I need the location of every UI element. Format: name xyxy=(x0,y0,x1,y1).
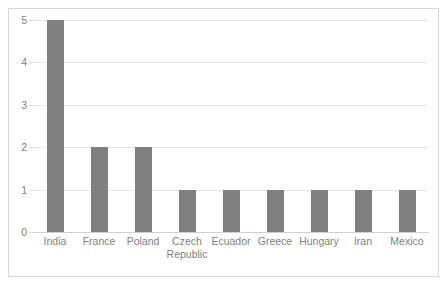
x-tick-label-iran: Iran xyxy=(341,235,385,261)
bar-slot-mexico xyxy=(385,20,429,232)
y-tick-label-1: 1 xyxy=(21,184,27,195)
bar-slot-greece xyxy=(253,20,297,232)
bar-slot-hungary xyxy=(297,20,341,232)
y-tick-label-2: 2 xyxy=(21,142,27,153)
bar-slot-iran xyxy=(341,20,385,232)
bar-mexico[interactable] xyxy=(399,190,416,232)
bar-greece[interactable] xyxy=(267,190,284,232)
bar-slot-india xyxy=(33,20,77,232)
x-tick-label-poland: Poland xyxy=(121,235,165,261)
chart-container: 5 4 3 2 1 0 India France xyxy=(8,8,439,277)
tick-mark-0 xyxy=(29,232,33,233)
y-tick-label-4: 4 xyxy=(21,57,27,68)
bar-slot-poland xyxy=(121,20,165,232)
bar-poland[interactable] xyxy=(135,147,152,232)
bar-slot-france xyxy=(77,20,121,232)
x-tick-label-czech-republic: Czech Republic xyxy=(165,235,209,261)
x-tick-label-india: India xyxy=(33,235,77,261)
bar-czech-republic[interactable] xyxy=(179,190,196,232)
x-tick-label-hungary: Hungary xyxy=(297,235,341,261)
bar-slot-czech-republic xyxy=(165,20,209,232)
x-tick-label-france: France xyxy=(77,235,121,261)
bar-france[interactable] xyxy=(91,147,108,232)
bar-ecuador[interactable] xyxy=(223,190,240,232)
y-tick-label-0: 0 xyxy=(21,227,27,238)
category-axis: India France Poland Czech Republic Ecuad… xyxy=(33,235,429,261)
y-tick-label-3: 3 xyxy=(21,100,27,111)
gridline-0 xyxy=(33,232,429,233)
bar-series xyxy=(33,20,429,232)
x-tick-label-greece: Greece xyxy=(253,235,297,261)
y-tick-label-5: 5 xyxy=(21,15,27,26)
x-tick-label-mexico: Mexico xyxy=(385,235,429,261)
bar-hungary[interactable] xyxy=(311,190,328,232)
bar-iran[interactable] xyxy=(355,190,372,232)
x-tick-label-ecuador: Ecuador xyxy=(209,235,253,261)
plot-area: 5 4 3 2 1 0 xyxy=(33,20,429,232)
bar-slot-ecuador xyxy=(209,20,253,232)
bar-india[interactable] xyxy=(47,20,64,232)
